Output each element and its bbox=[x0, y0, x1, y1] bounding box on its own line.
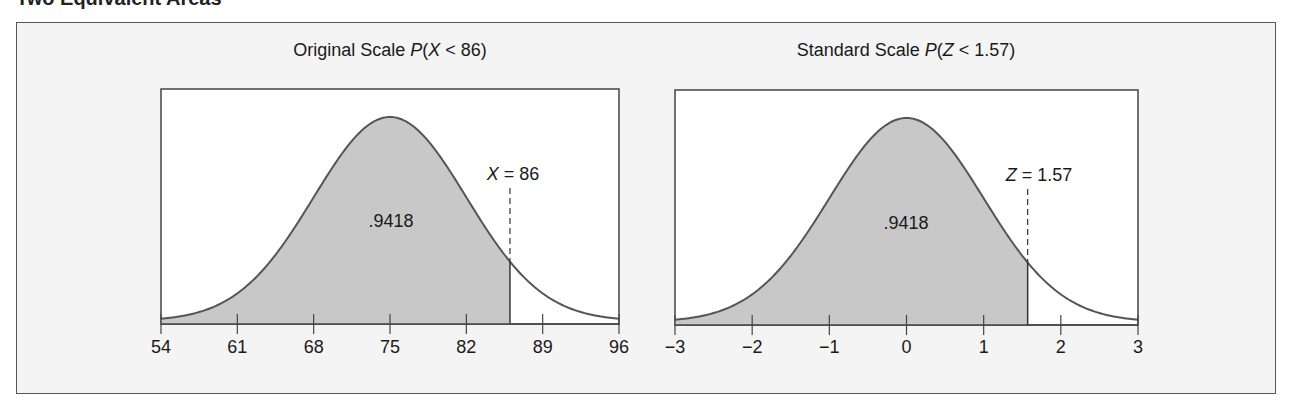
chart-canvas bbox=[0, 0, 1291, 416]
title-prefix: Standard Scale bbox=[797, 40, 925, 60]
cutoff-value: = 86 bbox=[499, 164, 540, 184]
x-tick-label: 89 bbox=[533, 337, 553, 358]
cutoff-value: = 1.57 bbox=[1017, 165, 1073, 185]
chart-title-standard: Standard Scale P(Z < 1.57) bbox=[797, 40, 1016, 61]
x-tick-label: 1 bbox=[979, 337, 989, 358]
title-var: X bbox=[428, 40, 440, 60]
shaded-area-label-original: .9418 bbox=[368, 211, 413, 232]
x-tick-label: 68 bbox=[304, 337, 324, 358]
cutoff-label-original: X = 86 bbox=[487, 164, 540, 185]
x-tick-label: −2 bbox=[742, 337, 763, 358]
chart-title-original: Original Scale P(X < 86) bbox=[293, 40, 487, 61]
title-func: P bbox=[925, 40, 937, 60]
shaded-area-label-standard: .9418 bbox=[883, 213, 928, 234]
cutoff-label-standard: Z = 1.57 bbox=[1006, 165, 1073, 186]
x-tick-label: 2 bbox=[1056, 337, 1066, 358]
x-tick-label: 61 bbox=[227, 337, 247, 358]
x-tick-label: 82 bbox=[456, 337, 476, 358]
x-tick-label: 96 bbox=[609, 337, 629, 358]
x-tick-label: 3 bbox=[1133, 337, 1143, 358]
x-tick-label: −1 bbox=[819, 337, 840, 358]
cutoff-var: X bbox=[487, 164, 499, 184]
x-tick-label: 54 bbox=[151, 337, 171, 358]
title-func: P bbox=[410, 40, 422, 60]
x-tick-label: −3 bbox=[665, 337, 686, 358]
cutoff-var: Z bbox=[1006, 165, 1017, 185]
x-tick-label: 0 bbox=[901, 337, 911, 358]
title-rest: < 1.57) bbox=[954, 40, 1016, 60]
x-tick-label: 75 bbox=[380, 337, 400, 358]
title-rest: < 86) bbox=[440, 40, 487, 60]
title-var: Z bbox=[943, 40, 954, 60]
title-prefix: Original Scale bbox=[293, 40, 410, 60]
